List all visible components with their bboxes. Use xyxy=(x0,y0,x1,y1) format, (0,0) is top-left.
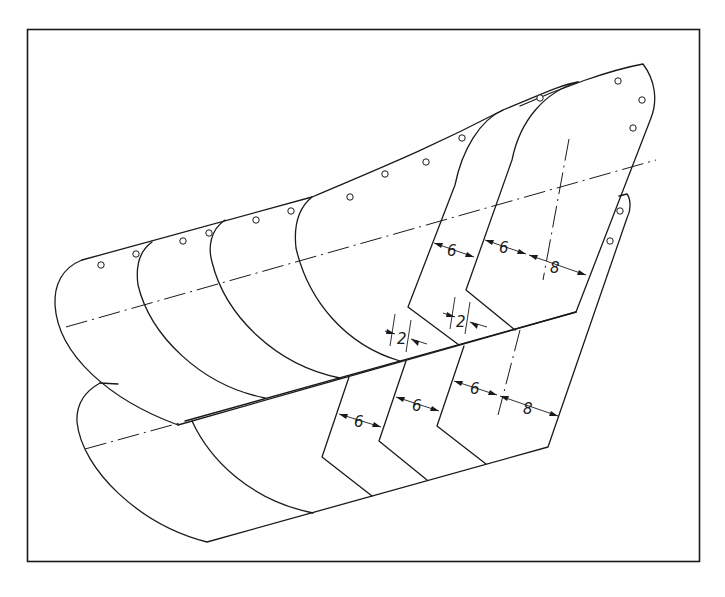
upper-section-arc-3 xyxy=(210,220,340,378)
dim-lower-width-b: 6 xyxy=(412,397,422,415)
upper-part xyxy=(55,64,656,425)
dim-lower-width-a: 6 xyxy=(354,413,364,431)
dim-upper-width-end: 8 xyxy=(550,259,560,277)
upper-base-line xyxy=(178,312,576,425)
upper-bolt-hole xyxy=(347,194,353,200)
upper-bolt-hole xyxy=(180,238,186,244)
lower-bolt-hole xyxy=(607,238,613,244)
lower-bolt-hole xyxy=(617,208,623,214)
upper-bolt-hole xyxy=(382,171,388,177)
lower-chevron-a xyxy=(322,377,372,496)
upper-dimensions: 6 6 8 2 2 xyxy=(385,239,586,352)
upper-bolt-hole xyxy=(423,159,429,165)
lower-section-arc xyxy=(192,421,313,513)
upper-bolt-hole xyxy=(288,208,294,214)
lower-part xyxy=(77,194,630,542)
upper-bolt-hole xyxy=(133,251,139,257)
upper-bolt-hole xyxy=(206,230,212,236)
lower-chevron-c xyxy=(437,346,486,464)
upper-left-end xyxy=(55,260,178,425)
lower-centerline xyxy=(85,422,183,449)
dim-upper-width-a: 6 xyxy=(447,242,457,260)
technical-drawing: 6 6 8 2 2 6 6 6 xyxy=(0,0,725,597)
upper-bolt-hole xyxy=(98,262,104,268)
dim-upper-width-b: 6 xyxy=(499,239,509,257)
upper-bolt-hole xyxy=(253,217,259,223)
dim-lower-width-end: 8 xyxy=(523,400,533,418)
upper-centerline xyxy=(66,160,656,327)
lower-vertical-centerline xyxy=(498,330,520,415)
upper-bolt-hole xyxy=(537,95,543,101)
dim-upper-overlap-right: 2 xyxy=(456,313,466,331)
upper-bolt-hole xyxy=(459,135,465,141)
lower-chevron-b xyxy=(379,361,427,480)
upper-section-arc-6 xyxy=(466,82,578,330)
upper-bolt-hole xyxy=(639,97,645,103)
lower-dimensions: 6 6 6 8 xyxy=(339,380,558,431)
upper-bolt-hole xyxy=(630,125,636,131)
upper-section-arc-2 xyxy=(137,242,265,398)
upper-top-edge xyxy=(82,82,578,260)
drawing-frame xyxy=(28,30,700,562)
upper-section-arc-4 xyxy=(295,197,400,361)
dim-lower-width-c: 6 xyxy=(470,380,480,398)
dim-upper-overlap-left: 2 xyxy=(397,330,407,348)
upper-bolt-hole xyxy=(615,78,621,84)
lower-part-outline xyxy=(77,194,630,542)
